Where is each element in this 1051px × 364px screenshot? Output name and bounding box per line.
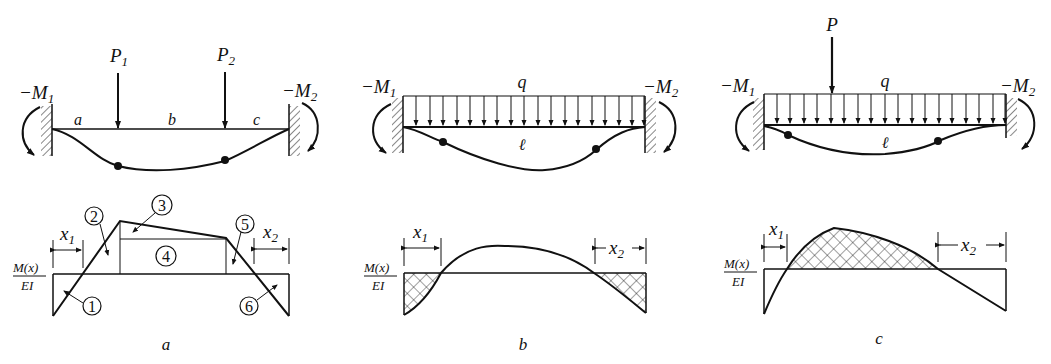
distributed-load-arrows-icon	[416, 96, 644, 125]
svg-text:M(x): M(x)	[723, 256, 749, 271]
inflection-point	[934, 137, 942, 145]
beam-c: P −M1 −M2 q ℓ	[720, 14, 1036, 154]
moment-arrow-right-icon	[302, 103, 318, 151]
svg-text:EI: EI	[731, 274, 745, 289]
svg-text:c: c	[253, 111, 260, 128]
moment-diagram-a: x1 x2 M(x) EI 1 2 3 4	[12, 195, 289, 354]
svg-text:M(x): M(x)	[12, 260, 38, 275]
moment-arrow-left-icon	[23, 107, 40, 155]
svg-text:q: q	[881, 71, 890, 91]
moment-diagram-c: x1 x2 M(x) EI c	[723, 218, 1006, 348]
svg-text:P2: P2	[216, 44, 236, 68]
svg-text:−M2: −M2	[1000, 75, 1036, 99]
moment-arrow-left-icon	[736, 102, 754, 151]
svg-text:−M1: −M1	[720, 75, 755, 99]
svg-text:1: 1	[88, 298, 96, 315]
svg-text:ℓ: ℓ	[882, 134, 889, 151]
svg-text:4: 4	[162, 248, 170, 265]
svg-text:EI: EI	[20, 278, 34, 293]
svg-text:x2: x2	[960, 234, 976, 258]
panel-a: −M1 −M2 P1 P2 a b c x1	[12, 44, 318, 354]
hatched-area	[787, 228, 938, 269]
svg-text:x1: x1	[59, 223, 75, 247]
inflection-point	[221, 156, 229, 164]
svg-text:−M1: −M1	[361, 76, 396, 100]
svg-text:x2: x2	[608, 237, 624, 261]
svg-text:x1: x1	[768, 218, 784, 242]
moment-diagram-b: x1 x2 M(x) EI b	[363, 221, 646, 354]
svg-text:−M2: −M2	[643, 76, 679, 100]
panel-caption-b: b	[519, 335, 528, 354]
panel-caption-c: c	[875, 329, 883, 348]
svg-text:−M1: −M1	[19, 82, 54, 106]
beam-figure: −M1 −M2 P1 P2 a b c x1	[0, 0, 1051, 364]
inflection-point	[592, 145, 600, 153]
inflection-point	[114, 162, 122, 170]
inflection-point	[784, 131, 792, 139]
panel-caption-a: a	[162, 335, 171, 354]
svg-text:6: 6	[245, 298, 253, 315]
moment-arrow-right-icon	[659, 102, 675, 152]
svg-text:a: a	[74, 111, 82, 128]
hatched-area	[404, 273, 441, 315]
panel-b: −M1 −M2 q ℓ x1 x2 M(x) EI b	[361, 72, 679, 354]
svg-text:EI: EI	[371, 278, 385, 293]
distributed-load-arrows-icon	[777, 94, 1005, 123]
moment-arrow-left-icon	[373, 104, 391, 153]
svg-text:ℓ: ℓ	[519, 136, 526, 153]
svg-text:x1: x1	[412, 221, 428, 245]
svg-text:3: 3	[158, 197, 166, 214]
svg-text:P1: P1	[109, 45, 128, 69]
deflection-curve	[52, 129, 289, 170]
svg-text:2: 2	[90, 208, 98, 225]
panel-c: P −M1 −M2 q ℓ x1 x2 M(x)	[720, 14, 1036, 348]
inflection-point	[439, 138, 447, 146]
beam-b: −M1 −M2 q ℓ	[361, 72, 679, 170]
svg-text:5: 5	[241, 216, 249, 233]
moment-arrow-right-icon	[1018, 99, 1034, 149]
svg-text:q: q	[518, 72, 527, 92]
svg-text:−M2: −M2	[282, 80, 318, 104]
svg-text:P: P	[825, 14, 838, 35]
svg-text:x2: x2	[262, 221, 278, 245]
svg-text:b: b	[168, 111, 176, 128]
beam-a: −M1 −M2 P1 P2 a b c	[19, 44, 318, 170]
svg-text:M(x): M(x)	[363, 260, 389, 275]
